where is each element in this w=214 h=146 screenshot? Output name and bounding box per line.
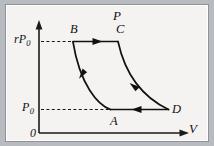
process-line-b-to-c <box>73 38 118 45</box>
pv-diagram-svg <box>6 5 210 143</box>
y-tick-rP0-subscript: 0 <box>26 38 31 48</box>
y-axis-label: P <box>113 9 121 22</box>
y-tick-P0-subscript: 0 <box>29 106 34 116</box>
x-axis <box>39 130 189 137</box>
process-curve-a-to-b <box>73 42 111 110</box>
point-label-b: B <box>70 23 78 36</box>
point-label-d: D <box>172 103 181 116</box>
y-tick-label-P0: P0 <box>22 101 34 115</box>
arrow-d-to-a <box>132 106 142 113</box>
y-axis-arrowhead <box>36 20 43 30</box>
x-axis-arrowhead <box>180 130 190 137</box>
point-label-c: C <box>116 23 124 36</box>
process-line-d-to-a <box>111 106 169 113</box>
pv-diagram-plot-area: P V 0 rP0 P0 A B C D <box>6 5 210 143</box>
arrow-c-to-d <box>130 83 140 91</box>
arrow-b-to-c <box>93 38 103 45</box>
x-axis-label: V <box>189 122 197 135</box>
figure-border: P V 0 rP0 P0 A B C D <box>5 4 209 142</box>
y-tick-rP0-main: rP <box>14 32 26 46</box>
origin-label: 0 <box>30 127 36 139</box>
point-label-a: A <box>110 115 118 128</box>
figure-frame: P V 0 rP0 P0 A B C D <box>0 0 214 146</box>
process-curve-c-to-d <box>118 42 169 110</box>
y-axis <box>36 20 43 133</box>
y-tick-label-rP0: rP0 <box>14 33 31 47</box>
